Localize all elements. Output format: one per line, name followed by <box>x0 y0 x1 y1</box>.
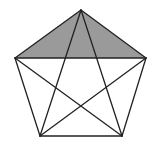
pentagon-diagram <box>0 0 159 150</box>
side-BC <box>122 58 146 136</box>
shaded-top-triangle <box>15 10 146 58</box>
side-DE <box>15 58 40 136</box>
diagonal-BD <box>40 58 146 136</box>
diagonal-CE <box>15 58 122 136</box>
